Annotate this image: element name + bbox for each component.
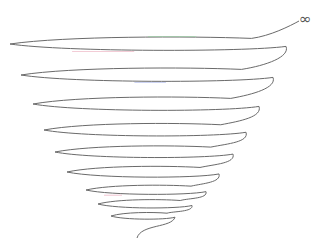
spiral-diagram [0, 0, 324, 250]
infinity-symbol: ∞ [299, 12, 312, 27]
spiral-path [10, 21, 299, 238]
